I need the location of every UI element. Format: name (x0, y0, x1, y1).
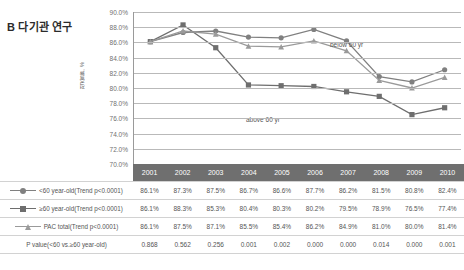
table-cell: 0.256 (199, 236, 232, 254)
table-body: <60 year-old(Trend p<0.0001)86.1%87.3%87… (0, 182, 464, 254)
y-tick-label: 86.0% (110, 39, 128, 46)
series-label-1: ≥60 year-old(Trend p<0.0001) (0, 200, 133, 218)
table-cell: 87.3% (166, 182, 199, 200)
y-axis-title: 적중률, % (79, 62, 91, 89)
table-row: PAC total(Trend p<0.0001)86.1%87.5%87.1%… (0, 218, 464, 236)
table-cell: 86.1% (133, 200, 166, 218)
table-row: <60 year-old(Trend p<0.0001)86.1%87.3%87… (0, 182, 464, 200)
y-axis-ticks: 90.0%88.0%86.0%84.0%82.0%80.0%78.0%76.0%… (95, 12, 131, 164)
gridline (134, 134, 461, 135)
data-point (246, 82, 251, 87)
table-cell: 87.1% (199, 218, 232, 236)
table-cell: 0.001 (431, 236, 464, 254)
table-cell: 80.0% (398, 218, 431, 236)
gridline (134, 27, 461, 28)
column-header-2001: 2001 (133, 164, 166, 182)
column-header-2007: 2007 (332, 164, 365, 182)
table-cell: 87.7% (298, 182, 331, 200)
column-header-2006: 2006 (298, 164, 331, 182)
page-title: B 다기관 연구 (7, 18, 73, 34)
series-line-1 (150, 25, 444, 115)
data-point (246, 34, 251, 39)
gridline (134, 58, 461, 59)
column-header-2002: 2002 (166, 164, 199, 182)
data-point (409, 112, 414, 117)
column-header-2003: 2003 (199, 164, 232, 182)
y-tick-label: 78.0% (110, 100, 128, 107)
data-point (409, 79, 414, 84)
table-cell: 0.868 (133, 236, 166, 254)
table-cell: 86.1% (133, 218, 166, 236)
table-corner-cell (0, 164, 133, 182)
table-cell: 0.000 (298, 236, 331, 254)
column-header-2008: 2008 (365, 164, 398, 182)
series-label-text: <60 year-old(Trend p<0.0001) (39, 187, 123, 194)
table-cell: 80.8% (398, 182, 431, 200)
table-header-row: 2001200220032004200520062007200820092010 (0, 164, 464, 182)
y-tick-label: 84.0% (110, 54, 128, 61)
table-cell: 88.3% (166, 200, 199, 218)
table-cell: 77.4% (431, 200, 464, 218)
gridline (134, 149, 461, 150)
series-label-text: ≥60 year-old(Trend p<0.0001) (39, 205, 123, 212)
y-tick-label: 88.0% (110, 24, 128, 31)
table-cell: 0.002 (265, 236, 298, 254)
data-point (442, 67, 447, 72)
column-header-2009: 2009 (398, 164, 431, 182)
table-cell: 86.6% (265, 182, 298, 200)
data-point (213, 45, 218, 50)
table-cell: 0.014 (365, 236, 398, 254)
series-label-text: PAC total(Trend p<0.0001) (44, 223, 119, 230)
series-label-2: PAC total(Trend p<0.0001) (0, 218, 133, 236)
y-tick-label: 80.0% (110, 85, 128, 92)
table-row: ≥60 year-old(Trend p<0.0001)86.1%88.3%85… (0, 200, 464, 218)
y-tick-label: 74.0% (110, 130, 128, 137)
gridline (134, 73, 461, 74)
table-cell: 81.5% (365, 182, 398, 200)
column-header-2010: 2010 (431, 164, 464, 182)
table-cell: 78.9% (365, 200, 398, 218)
data-point (377, 94, 382, 99)
table-cell: 0.562 (166, 236, 199, 254)
table-cell: 76.5% (398, 200, 431, 218)
table-cell: 0.001 (232, 236, 265, 254)
table-cell: 86.1% (133, 182, 166, 200)
table-cell: 85.5% (232, 218, 265, 236)
table-row: P value(<60 vs.≥60 year-old)0.8680.5620.… (0, 236, 464, 254)
legend-marker-square-icon (10, 205, 36, 213)
y-tick-label: 76.0% (110, 115, 128, 122)
gridline (134, 103, 461, 104)
table-cell: 80.2% (298, 200, 331, 218)
table-cell: 82.4% (431, 182, 464, 200)
table-cell: 80.4% (232, 200, 265, 218)
gridline (134, 118, 461, 119)
data-point (442, 105, 447, 110)
legend-marker-triangle-icon (15, 223, 41, 231)
table-cell: 87.5% (166, 218, 199, 236)
y-tick-label: 72.0% (110, 145, 128, 152)
annotation-above-60: above 60 yr (246, 116, 280, 123)
p-value-row-label: P value(<60 vs.≥60 year-old) (0, 236, 133, 254)
series-line-0 (150, 29, 444, 81)
series-label-0: <60 year-old(Trend p<0.0001) (0, 182, 133, 200)
line-chart: 90.0%88.0%86.0%84.0%82.0%80.0%78.0%76.0%… (95, 12, 461, 164)
table-cell: 86.2% (332, 182, 365, 200)
data-table: 2001200220032004200520062007200820092010… (0, 164, 464, 254)
gridline (134, 88, 461, 89)
table-cell: 85.4% (265, 218, 298, 236)
table-cell: 84.9% (332, 218, 365, 236)
table-cell: 85.3% (199, 200, 232, 218)
column-header-2005: 2005 (265, 164, 298, 182)
legend-marker-circle-icon (10, 187, 36, 195)
table-cell: 0.000 (332, 236, 365, 254)
data-point (279, 35, 284, 40)
plot-area: below 60 yr above 60 yr (133, 12, 461, 164)
y-tick-label: 90.0% (110, 9, 128, 16)
table-cell: 86.7% (232, 182, 265, 200)
table-cell: 80.3% (265, 200, 298, 218)
table-header: 2001200220032004200520062007200820092010 (0, 164, 464, 182)
gridline (134, 12, 461, 13)
table-cell: 79.5% (332, 200, 365, 218)
data-point (442, 74, 448, 80)
gridline (134, 42, 461, 43)
